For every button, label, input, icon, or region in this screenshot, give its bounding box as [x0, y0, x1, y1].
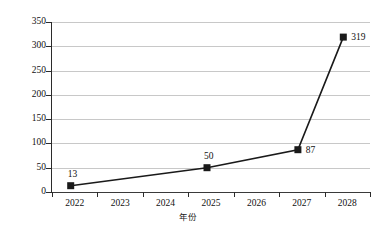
x-axis-title: 年份: [0, 212, 376, 223]
series-layer: [0, 0, 376, 241]
data-point-label: 50: [204, 152, 214, 162]
series-line: [71, 37, 344, 186]
data-point-marker: [294, 146, 301, 153]
data-point-label: 13: [68, 170, 78, 180]
series-markers: [67, 34, 347, 190]
data-point-label: 87: [306, 146, 316, 156]
data-point-marker: [67, 182, 74, 189]
line-chart: 产业规模/亿美元 050100150200250300350 202220232…: [0, 0, 376, 241]
data-point-marker: [204, 164, 211, 171]
data-point-label: 319: [351, 33, 365, 43]
data-point-marker: [340, 34, 347, 41]
